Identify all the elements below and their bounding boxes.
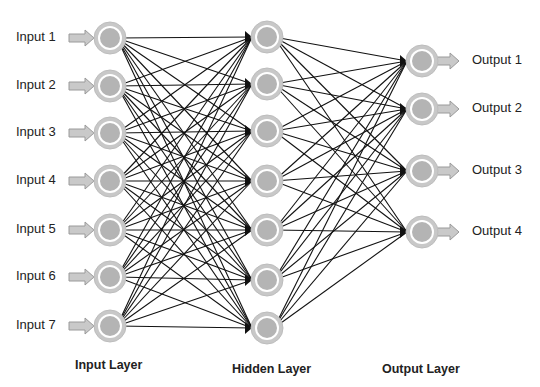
input-node: [94, 22, 126, 54]
input-hidden-edge: [117, 131, 252, 326]
input-hidden-edge: [117, 84, 252, 326]
output-label: Output 1: [472, 53, 522, 67]
hidden-output-edge: [274, 171, 407, 280]
output-node: [406, 216, 438, 248]
input-node: [94, 165, 126, 197]
input-hidden-edge: [117, 37, 252, 38]
hidden-node: [251, 68, 283, 100]
input-node: [94, 214, 126, 246]
hidden-node: [251, 214, 283, 246]
output-label: Output 4: [472, 224, 522, 238]
output-node: [406, 155, 438, 187]
input-hidden-edge: [117, 86, 252, 280]
neural-network-diagram: [0, 0, 540, 387]
input-node: [94, 117, 126, 149]
input-arrow-icon: [69, 222, 94, 238]
input-hidden-edge: [117, 280, 252, 326]
output-layer-label: Output Layer: [382, 362, 460, 376]
hidden-node: [251, 165, 283, 197]
input-arrow-icon: [69, 173, 94, 189]
output-node: [406, 45, 438, 77]
input-arrow-icon: [69, 125, 94, 141]
input-arrow-icon: [69, 269, 94, 285]
hidden-output-edge: [274, 109, 407, 328]
hidden-layer-label: Hidden Layer: [232, 362, 311, 376]
input-node: [94, 310, 126, 342]
hidden-output-edge: [274, 232, 407, 280]
output-node: [406, 93, 438, 125]
input-label: Input 1: [16, 30, 56, 44]
input-node: [94, 70, 126, 102]
hidden-node: [251, 312, 283, 344]
input-arrow-icon: [69, 78, 94, 94]
hidden-output-edge: [274, 61, 407, 84]
output-label: Output 2: [472, 101, 522, 115]
hidden-output-edge: [274, 181, 407, 232]
input-label: Input 7: [16, 318, 56, 332]
output-label: Output 3: [472, 163, 522, 177]
input-label: Input 2: [16, 78, 56, 92]
input-layer-label: Input Layer: [75, 358, 142, 372]
input-hidden-edge: [117, 326, 252, 328]
hidden-node: [251, 115, 283, 147]
input-hidden-edge: [117, 133, 252, 280]
input-label: Input 6: [16, 269, 56, 283]
input-arrow-icon: [69, 30, 94, 46]
input-label: Input 3: [16, 125, 56, 139]
hidden-node: [251, 264, 283, 296]
hidden-node: [251, 21, 283, 53]
input-node: [94, 261, 126, 293]
input-hidden-edge: [117, 37, 252, 277]
input-label: Input 5: [16, 222, 56, 236]
hidden-output-edge: [274, 230, 407, 232]
input-label: Input 4: [16, 173, 56, 187]
input-arrow-icon: [69, 318, 94, 334]
